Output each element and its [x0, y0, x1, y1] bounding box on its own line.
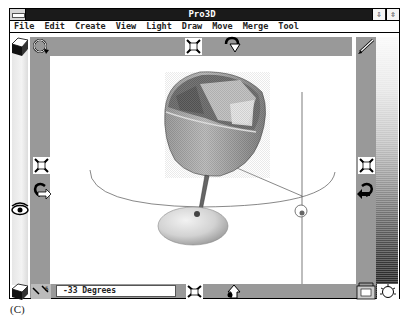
scale-arrows-icon[interactable] — [33, 157, 50, 174]
zoom-icon[interactable]: 5 — [31, 284, 51, 299]
scale-arrows-icon[interactable] — [185, 38, 202, 55]
goblet-cup — [165, 72, 270, 178]
rotate-down-icon[interactable] — [226, 38, 240, 52]
scale-arrows-icon[interactable] — [186, 284, 203, 299]
svg-text:5: 5 — [45, 285, 49, 292]
cube-icon[interactable] — [12, 38, 28, 56]
rotate-left-icon[interactable] — [357, 184, 372, 199]
light-bulb-icon[interactable] — [377, 284, 399, 299]
figure-caption: (C) — [10, 303, 25, 315]
render-icon[interactable] — [357, 283, 375, 299]
rotate-icon[interactable] — [34, 40, 49, 54]
rotate-right-icon[interactable] — [35, 184, 51, 199]
cube-icon[interactable] — [12, 284, 28, 300]
pencil-icon[interactable] — [358, 40, 373, 54]
eye-icon[interactable] — [12, 203, 28, 215]
goblet-base — [158, 207, 228, 245]
light-source-handle[interactable] — [295, 205, 307, 217]
scale-arrows-icon[interactable] — [358, 157, 375, 174]
goblet-scene: 5 — [0, 0, 404, 319]
rotation-status-field: -33 Degrees — [56, 285, 176, 297]
rotate-up-icon[interactable] — [228, 285, 241, 298]
